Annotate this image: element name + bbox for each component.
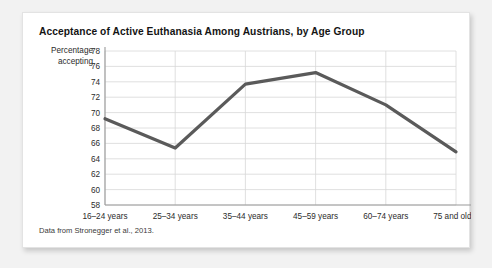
svg-text:75 and older: 75 and older (433, 212, 471, 221)
y-tick-labels: 7876747270686664626058 (91, 47, 101, 210)
svg-text:60: 60 (91, 186, 101, 195)
source-note: Data from Stronegger et al., 2013. (39, 226, 154, 235)
svg-text:74: 74 (91, 78, 101, 87)
svg-text:64: 64 (91, 155, 101, 164)
svg-text:76: 76 (91, 62, 101, 71)
line-chart: 7876747270686664626058 16–24 years25–34 … (23, 13, 471, 249)
svg-text:66: 66 (91, 139, 101, 148)
svg-text:62: 62 (91, 170, 101, 179)
x-tick-labels: 16–24 years25–34 years35–44 years45–59 y… (82, 212, 471, 221)
svg-text:78: 78 (91, 47, 101, 56)
chart-plot-area: 7876747270686664626058 16–24 years25–34 … (23, 13, 471, 249)
svg-text:25–34 years: 25–34 years (153, 212, 198, 221)
svg-text:58: 58 (91, 201, 101, 210)
svg-text:60–74 years: 60–74 years (363, 212, 408, 221)
svg-text:68: 68 (91, 124, 101, 133)
svg-text:35–44 years: 35–44 years (223, 212, 268, 221)
svg-text:70: 70 (91, 109, 101, 118)
gridlines (105, 51, 456, 205)
svg-text:72: 72 (91, 93, 101, 102)
svg-text:45–59 years: 45–59 years (293, 212, 338, 221)
svg-text:16–24 years: 16–24 years (82, 212, 127, 221)
chart-card: Acceptance of Active Euthanasia Among Au… (22, 12, 470, 248)
